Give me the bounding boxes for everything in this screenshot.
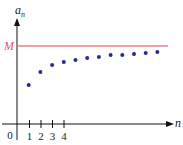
data-point (27, 83, 31, 87)
x-tick-label-3: 3 (50, 131, 56, 142)
chart-canvas (0, 0, 183, 145)
origin-label: 0 (7, 130, 13, 141)
x-axis-label: n (175, 117, 181, 129)
x-tick-label-2: 2 (38, 131, 44, 142)
bound-label: M (4, 40, 14, 52)
data-point (144, 51, 148, 55)
x-axis-arrow-icon (166, 121, 174, 127)
data-point (132, 52, 136, 56)
data-point (74, 58, 78, 62)
x-tick-label-1: 1 (27, 131, 33, 142)
data-point (120, 53, 124, 57)
y-axis-label: an (15, 4, 25, 19)
data-point (62, 60, 66, 64)
data-point (97, 55, 101, 59)
data-point (155, 50, 159, 54)
sequence-points (27, 50, 160, 87)
x-tick-label-4: 4 (61, 131, 67, 142)
data-point (85, 56, 89, 60)
data-point (109, 53, 113, 57)
data-point (50, 63, 54, 67)
data-point (38, 70, 42, 74)
